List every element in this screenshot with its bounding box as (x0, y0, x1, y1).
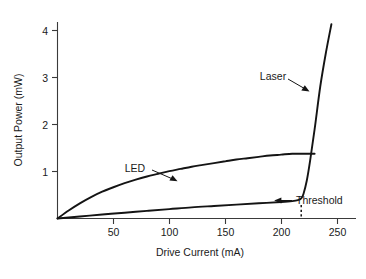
x-axis-title: Drive Current (mA) (156, 246, 244, 258)
laser-label: Laser (260, 70, 287, 82)
led-laser-output-power-plot: 4 3 2 1 50 100 150 200 250 Drive Current… (0, 0, 366, 279)
axes-group (58, 22, 357, 219)
x-tick-labels: 50 100 150 200 250 (108, 226, 347, 238)
laser-arrowhead (301, 85, 309, 91)
y-tick-label-2: 2 (42, 119, 48, 131)
laser-annotation: Laser (260, 70, 310, 91)
y-tick-label-3: 3 (42, 72, 48, 84)
x-tick-label-50: 50 (108, 226, 120, 238)
led-label: LED (125, 162, 146, 174)
y-tick-label-4: 4 (42, 25, 48, 37)
y-axis-title: Output Power (mW) (12, 74, 24, 167)
laser-curve (58, 24, 332, 218)
chart-figure: 4 3 2 1 50 100 150 200 250 Drive Current… (0, 0, 366, 279)
x-tick-label-250: 250 (329, 226, 347, 238)
y-tick-marks (52, 31, 58, 172)
y-tick-label-1: 1 (42, 166, 48, 178)
led-curve-body (58, 154, 315, 219)
x-tick-marks (114, 219, 338, 225)
data-curves (58, 24, 332, 218)
x-tick-label-150: 150 (217, 226, 235, 238)
y-tick-labels: 4 3 2 1 (42, 25, 48, 178)
threshold-annotation: Threshold (274, 194, 343, 206)
x-tick-label-200: 200 (273, 226, 291, 238)
x-tick-label-100: 100 (161, 226, 179, 238)
threshold-label: Threshold (296, 194, 343, 206)
